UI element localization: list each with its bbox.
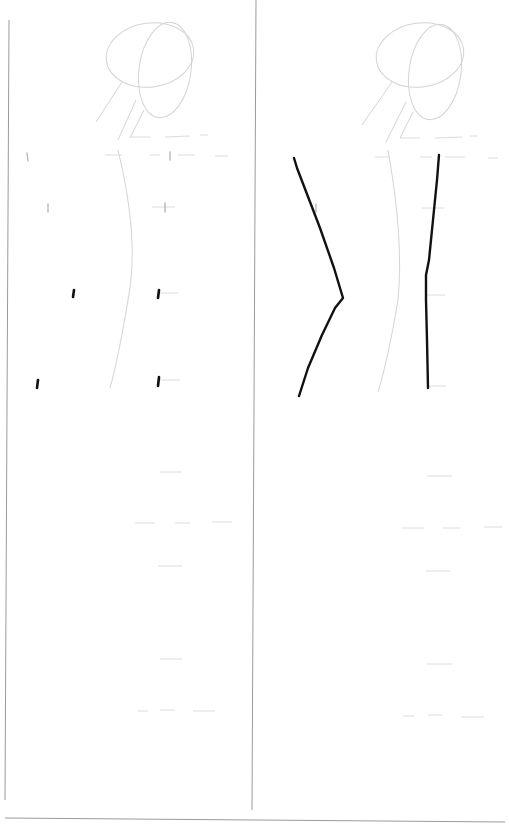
head-sketch-2 [362,17,468,142]
tutorial-illustration [0,0,509,824]
spine-curve [110,150,132,388]
panel-frames [5,0,505,822]
panel-2 [294,17,502,717]
landmark-marks [27,152,170,388]
panel-1 [27,17,232,711]
back-contour-line [294,158,343,396]
front-contour-line [426,155,439,388]
guide-ticks [105,135,232,711]
spine-curve-2 [378,150,400,392]
guide-ticks-2 [316,136,502,717]
head-sketch [96,17,198,140]
